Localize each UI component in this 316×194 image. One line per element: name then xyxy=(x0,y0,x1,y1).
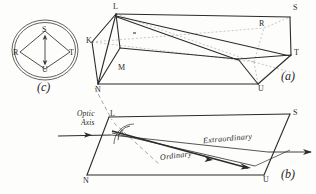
panel-c-caption: (c) xyxy=(37,81,50,93)
panel-b-vertex-U: U xyxy=(263,176,269,184)
panel-a-vertex-S: S xyxy=(293,4,298,12)
edge-U-notch xyxy=(238,59,258,84)
panel-b-extraordinary-ray xyxy=(112,131,290,170)
edge-N-M xyxy=(98,48,120,84)
panel-b-caption: (b) xyxy=(281,168,295,180)
edge-b-L-S xyxy=(109,114,290,117)
edge-L-front-top xyxy=(116,14,120,48)
panel-a-vertex-N: N xyxy=(95,86,101,94)
panel-c-vertex-U: U xyxy=(42,66,48,74)
panel-c-vertex-R: R xyxy=(13,49,19,57)
edge-top-right-T xyxy=(238,55,291,59)
panel-a-vertex-L: L xyxy=(113,3,118,11)
panel-a-vertex-R: R xyxy=(259,20,265,28)
edge-b-S-U xyxy=(264,114,290,175)
figure-canvas: K L M N R S T U (a) Optic Axis L α N S U… xyxy=(0,0,316,194)
edge-K-N xyxy=(92,42,98,84)
panel-a-vertex-U: U xyxy=(258,85,264,93)
panel-b-vertex-N: N xyxy=(83,177,89,185)
panel-a-vertex-T: T xyxy=(294,49,299,57)
panel-b-vertex-L: L xyxy=(110,110,115,118)
edge-L-S xyxy=(116,14,290,17)
panel-a-caption: (a) xyxy=(281,70,295,82)
panel-c-vertex-S: S xyxy=(42,26,47,34)
panel-b-group xyxy=(58,88,312,175)
panel-b-angle-label: α xyxy=(120,128,123,134)
panel-b-optic-axis-label-line2: Axis xyxy=(81,119,95,127)
panel-b-outline xyxy=(87,114,290,175)
panel-a-vertex-M: M xyxy=(118,64,125,72)
figure-linework xyxy=(0,0,316,194)
panel-a-vertex-K: K xyxy=(86,37,92,45)
edge-S-T xyxy=(290,17,291,55)
panel-b-vertex-S: S xyxy=(293,109,298,117)
panel-c-vertex-T: T xyxy=(69,49,74,57)
panel-b-optic-axis-label-line1: Optic xyxy=(77,110,95,118)
